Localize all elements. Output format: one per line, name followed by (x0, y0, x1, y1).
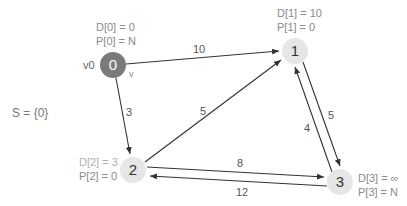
node-0[interactable]: 0 (100, 52, 126, 78)
node-0-name-tag: v0 (83, 59, 95, 72)
node-0-cursor-tag: v (129, 68, 134, 81)
node-2-label: 2 (129, 161, 137, 178)
node-3[interactable]: 3 (327, 169, 353, 195)
node-0-predecessor: P[0] = N (96, 35, 136, 48)
node-3-predecessor: P[3] = N (358, 186, 398, 199)
node-3-label: 3 (336, 173, 344, 190)
node-1-distance: D[1] = 10 (277, 7, 322, 20)
edge-3-2-weight: 12 (236, 186, 248, 198)
node-2-distance: D[2] = 3 (79, 156, 118, 169)
node-0-label: 0 (109, 56, 117, 73)
node-2-predecessor: P[2] = 0 (79, 170, 117, 183)
graph-canvas: 0 1 2 3 (0, 0, 407, 206)
node-1[interactable]: 1 (282, 38, 308, 64)
node-3-distance: D[3] = ∞ (358, 172, 399, 185)
edge-0-2-weight: 3 (126, 106, 132, 118)
edge-2-1 (145, 60, 281, 162)
visited-set-label: S = {0} (12, 106, 48, 120)
edge-3-1 (295, 67, 332, 172)
node-1-predecessor: P[1] = 0 (277, 21, 315, 34)
edge-2-3-weight: 8 (237, 157, 243, 169)
node-2[interactable]: 2 (120, 157, 146, 183)
edge-3-2 (150, 176, 327, 186)
node-0-distance: D[0] = 0 (96, 21, 135, 34)
edge-1-3-weight: 5 (328, 109, 334, 121)
edge-3-1-weight: 4 (304, 122, 310, 134)
edge-2-1-weight: 5 (200, 105, 206, 117)
edge-1-3 (303, 62, 340, 166)
edge-2-3 (147, 167, 324, 177)
edge-0-1-weight: 10 (193, 43, 205, 55)
node-1-label: 1 (291, 42, 299, 59)
